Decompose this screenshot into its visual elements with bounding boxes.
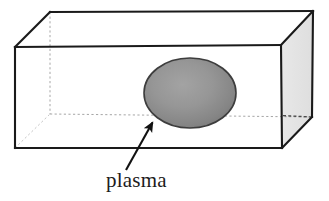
box-top-face [15, 11, 313, 47]
edge-front-right-vertical [281, 45, 282, 148]
plasma-region [144, 58, 236, 128]
edge-back-top [50, 11, 313, 12]
edge-back-right-vertical [312, 11, 313, 117]
plasma-chamber-figure: plasma [0, 0, 329, 201]
plasma-label: plasma [106, 168, 167, 193]
